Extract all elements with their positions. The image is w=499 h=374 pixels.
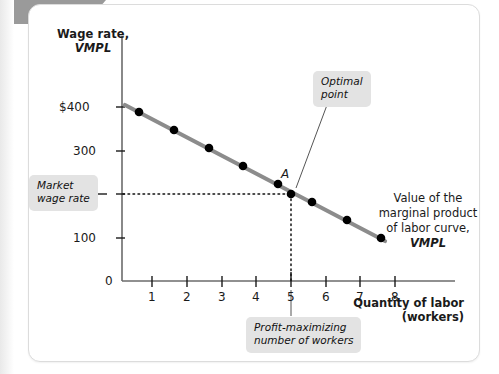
x-tick-label-3: 3 <box>218 290 226 304</box>
x-tick-label-5: 5 <box>287 290 295 304</box>
x-tick-label-1: 1 <box>148 290 156 304</box>
optimal-point-a-label: A <box>281 167 289 181</box>
optimal-point-line2: point <box>321 88 348 100</box>
market-wage-rate-callout: Market wage rate <box>29 175 98 211</box>
y-axis-title: Wage rate, VMPL <box>57 28 129 55</box>
optimal-point-callout: Optimal point <box>313 71 371 107</box>
optimal-point-line1: Optimal <box>321 75 363 87</box>
y-tick-label-300: 300 <box>73 144 96 158</box>
optimal-point-leader-line <box>296 97 330 188</box>
curve-note-line3: of labor curve, <box>386 221 470 235</box>
x-axis-title-line2: (workers) <box>402 310 464 324</box>
curve-note-line1: Value of the <box>394 191 463 205</box>
data-point <box>170 126 179 135</box>
y-axis-title-line1: Wage rate, <box>57 27 129 41</box>
market-wage-rate-line2: wage rate <box>37 192 90 204</box>
data-point-optimal <box>287 190 296 199</box>
y-tick-label-400: $400 <box>59 100 90 114</box>
data-point <box>205 144 214 153</box>
vmpl-curve-note: Value of the marginal product of labor c… <box>378 191 478 251</box>
x-tick-label-2: 2 <box>183 290 191 304</box>
x-axis-title-line1: Quantity of labor <box>353 296 464 310</box>
curve-note-line2: marginal product <box>379 206 478 220</box>
y-tick-label-0: 0 <box>105 274 113 288</box>
data-point <box>135 108 144 117</box>
x-axis-ticks <box>152 272 395 287</box>
profit-max-line1: Profit-maximizing <box>254 321 346 333</box>
data-point <box>308 198 317 207</box>
y-tick-label-100: 100 <box>73 231 96 245</box>
curve-note-line4: VMPL <box>410 236 446 250</box>
y-axis-ticks <box>116 107 125 238</box>
data-point <box>239 162 248 171</box>
profit-max-line2: number of workers <box>254 334 353 346</box>
profit-maximizing-callout: Profit-maximizing number of workers <box>246 317 361 353</box>
y-axis-title-line2: VMPL <box>75 41 112 55</box>
market-wage-rate-line1: Market <box>37 179 73 191</box>
data-point <box>343 216 352 225</box>
x-tick-label-4: 4 <box>252 290 260 304</box>
